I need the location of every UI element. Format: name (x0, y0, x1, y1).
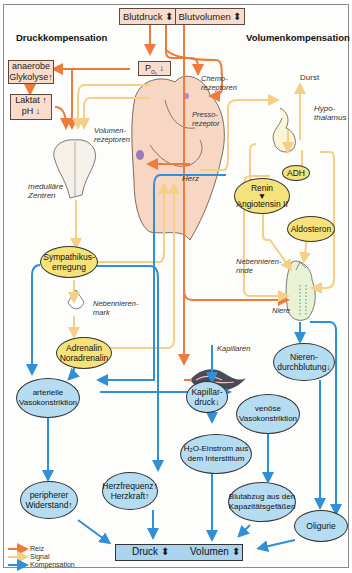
nierendurchblutung-node: Nieren- durchblutung↓ (273, 343, 335, 381)
laktat-ph-box: Laktat ↑ pH ↓ (10, 94, 52, 120)
legend-signal: Signal (30, 553, 49, 560)
adrenalin-noradrenalin-node: Adrenalin Noradrenalin (56, 337, 112, 369)
medullaere-zentren-label: medulläre Zentren (28, 182, 63, 200)
po2-arrow: ↓ (159, 63, 164, 73)
chemorezeptoren-label: Chemo- rezeptoren (201, 74, 237, 92)
laktat-line: Laktat ↑ (11, 95, 51, 106)
nebennierenrinde-label: Nebennieren- rinde (236, 257, 281, 275)
volumenrezeptoren-label: Volumen- rezeptoren (94, 126, 130, 144)
kapillaren-label: Kapillaren (217, 344, 250, 353)
sympathikuserregung-node: Sympathikus- erregung (40, 246, 98, 278)
kapillardruck-node: Kapillar- druck↓ (186, 381, 228, 413)
heart-illustration (132, 76, 224, 240)
adrenal-medulla-illustration (68, 290, 84, 309)
kidney-illustration (286, 261, 315, 320)
niere-label: Niere (272, 306, 290, 315)
druck-result: Druck ⬍ (132, 546, 169, 557)
herzfrequenz-herzkraft-node: Herzfrequenz↑ Herzkraft↑ (102, 472, 158, 510)
volumenkompensation-title: Volumenkompensation (246, 32, 350, 43)
legend-reiz: Reiz (30, 545, 44, 552)
blutdruck-box: Blutdruck ⬍ (119, 8, 177, 25)
po2-subscript: O₂ (151, 69, 157, 75)
nebennierenmark-label: Nebennieren- mark (93, 299, 138, 317)
peripherer-widerstand-node: peripherer Widerstand↑ (20, 481, 78, 519)
arterielle-vasokonstriktion-node: arterielle Vasokonstriktion (16, 378, 80, 418)
glykolyse-line2: Glykolyse↑ (9, 72, 53, 83)
pressorezeptoren-label: Presso- rezeptor (192, 110, 220, 128)
aldosteron-node: Aldosteron (287, 216, 335, 242)
hypothalamus-label: Hypo- thalamus (314, 104, 346, 122)
blutvolumen-box: Blutvolumen ⬍ (175, 8, 245, 25)
ph-line: pH ↓ (11, 106, 51, 117)
glykolyse-line1: anaerobe (9, 61, 53, 72)
druckkompensation-title: Druckkompensation (16, 32, 107, 43)
anaerobe-glykolyse-box: anaerobe Glykolyse↑ (8, 60, 54, 84)
renin-angiotensin-node: Renin ▼ Angiotensin II (234, 178, 290, 214)
druck-volumen-result-box: Druck ⬍ Volumen ⬍ (115, 544, 243, 561)
venoese-vasokonstriktion-node: venöse Vasokonstriktion (236, 394, 300, 434)
blutabzug-node: Blutabzug aus den Kapazitätsgefäßen (228, 482, 296, 522)
volumen-result: Volumen ⬍ (190, 546, 240, 557)
durst-label: Durst (300, 73, 319, 82)
h2o-einstrom-node: H₂O-Einstrom aus dem Interstitium (180, 434, 252, 474)
adh-node: ADH (282, 165, 310, 181)
hypothalamus-illustration (273, 108, 295, 152)
po2-box: PO₂ ↓ (138, 61, 171, 76)
legend-kompensation: Kompensation (30, 561, 75, 568)
herz-label: Herz (182, 174, 199, 183)
oligurie-node: Oligurie (294, 510, 348, 542)
